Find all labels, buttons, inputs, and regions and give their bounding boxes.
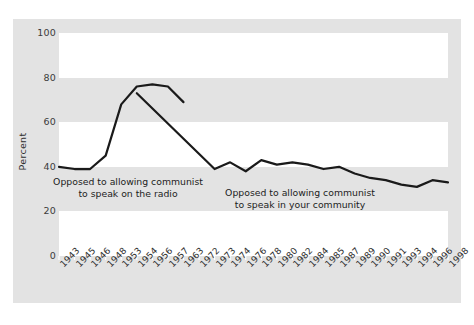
series-annotation-community: Opposed to allowing communist to speak i… [216,187,384,210]
series-annotation-radio: Opposed to allowing communist to speak o… [49,176,207,199]
annotation-radio-line1: Opposed to allowing communist [49,176,207,188]
x-axis-tick-labels: 1943194519461948195319541956195719631972… [0,0,474,325]
annotation-community-line1: Opposed to allowing communist [216,187,384,199]
chart-figure: 020406080100 Percent 1943194519461948195… [0,0,474,325]
annotation-radio-line2: to speak on the radio [49,188,207,200]
annotation-community-line2: to speak in your community [216,199,384,211]
